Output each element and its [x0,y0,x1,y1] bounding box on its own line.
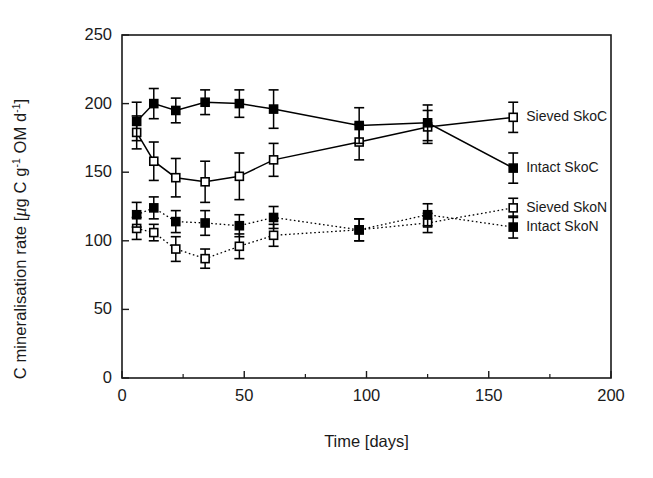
data-point-filled-square [172,218,180,226]
data-point-open-square [235,172,243,180]
legend-label-intact-skoc: Intact SkoC [526,159,598,175]
x-axis-tick-label: 200 [571,386,651,405]
data-point-filled-square [355,122,363,130]
data-point-open-square [270,156,278,164]
x-axis-tick-label: 50 [204,386,284,405]
legend-label-sieved-skoc: Sieved SkoC [526,108,607,124]
data-point-filled-square [509,164,517,172]
x-axis-label: Time [days] [122,432,611,451]
series-line [137,208,514,259]
legend-label-sieved-skon: Sieved SkoN [526,199,607,215]
data-point-filled-square [509,223,517,231]
data-point-filled-square [201,219,209,227]
data-point-open-square [201,178,209,186]
y-axis-tick-label: 250 [32,25,112,44]
data-point-open-square [150,157,158,165]
data-point-open-square [172,174,180,182]
legend-label-intact-skon: Intact SkoN [526,218,598,234]
data-point-filled-square [133,117,141,125]
data-point-open-square [509,204,517,212]
data-point-filled-square [424,211,432,219]
data-point-filled-square [235,100,243,108]
data-point-open-square [509,113,517,121]
data-point-filled-square [424,119,432,127]
x-axis-tick-label: 150 [449,386,529,405]
data-point-filled-square [172,106,180,114]
x-axis-tick-label: 0 [82,386,162,405]
data-point-open-square [270,231,278,239]
chart-figure: C mineralisation rate [μg C g-1 OM d-1] … [0,0,653,478]
data-point-open-square [235,242,243,250]
y-axis-tick-label: 200 [32,94,112,113]
series-sieved-skoc [132,102,519,202]
x-axis-tick-label: 100 [327,386,407,405]
data-point-filled-square [201,98,209,106]
data-point-filled-square [133,211,141,219]
series-intact-skoc [132,89,519,184]
y-axis-label-text: C mineralisation rate [μg C g-1 OM d-1] [10,99,31,380]
y-axis-tick-label: 100 [32,231,112,250]
data-point-filled-square [150,100,158,108]
y-axis-tick-label: 50 [32,299,112,318]
series-sieved-skon [132,198,519,268]
series-line [137,208,514,230]
y-axis-tick-label: 0 [32,368,112,387]
data-point-filled-square [150,204,158,212]
data-point-filled-square [235,222,243,230]
series-line [137,117,514,181]
data-point-open-square [201,255,209,263]
data-point-filled-square [270,105,278,113]
series-line [137,102,514,168]
data-point-open-square [150,229,158,237]
y-axis-tick-label: 150 [32,162,112,181]
series-intact-skon [132,197,519,241]
data-point-open-square [172,245,180,253]
data-point-filled-square [270,213,278,221]
data-point-filled-square [355,226,363,234]
